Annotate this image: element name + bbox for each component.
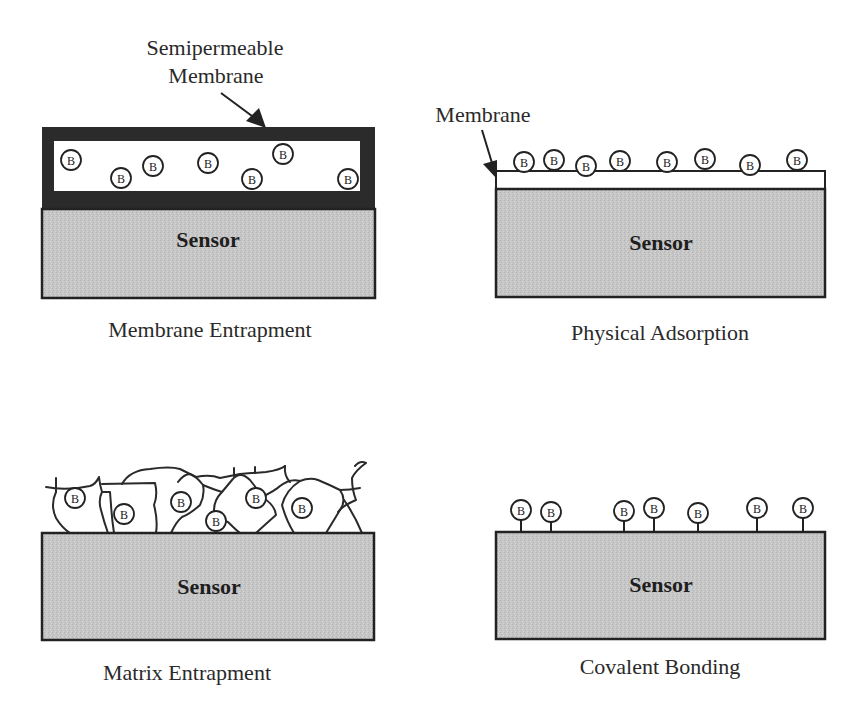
biomolecule-icon: B: [65, 488, 85, 508]
biomolecule-icon: B: [114, 504, 134, 524]
biomolecule-label: B: [212, 515, 220, 529]
arrow-icon: [221, 93, 266, 128]
biomolecule-label: B: [663, 156, 671, 170]
sensor-block: [42, 209, 375, 298]
biomolecule-icon: B: [544, 150, 564, 170]
biomolecule-label: B: [344, 173, 352, 187]
biomolecule-label: B: [694, 507, 702, 521]
biomolecule-label: B: [71, 492, 79, 506]
biomolecule-icon: B: [111, 168, 131, 188]
biomolecule-label: B: [650, 502, 658, 516]
biomolecule-label: B: [746, 159, 754, 173]
caption-membrane-entrapment: Membrane Entrapment: [108, 317, 311, 342]
biomolecule-label: B: [117, 172, 125, 186]
biomolecule-icon: B: [610, 151, 630, 171]
biomolecule-label: B: [252, 492, 260, 506]
sensor-label: Sensor: [629, 572, 693, 597]
biomolecule-label: B: [120, 508, 128, 522]
panel-covalent-bonding: Sensor BBBBBBB Covalent Bonding: [496, 498, 825, 679]
panel-matrix-entrapment: Sensor BBBBBB Matrix Entrapment: [42, 462, 374, 685]
biomolecule-icon: B: [695, 149, 715, 169]
biomolecule-label: B: [753, 502, 761, 516]
biomolecule-label: B: [701, 153, 709, 167]
biomolecule-label: B: [517, 504, 525, 518]
callout-semipermeable-line2: Membrane: [168, 63, 263, 88]
biomolecule-label: B: [298, 502, 306, 516]
biomolecule-icon: B: [576, 156, 596, 176]
biomolecule-label: B: [550, 154, 558, 168]
caption-physical-adsorption: Physical Adsorption: [571, 320, 749, 345]
biomolecule-label: B: [204, 157, 212, 171]
membrane-layer: [496, 171, 825, 189]
panel-physical-adsorption: Membrane Sensor BBBBBBBB Physical Adsorp…: [435, 102, 825, 345]
sensor-label: Sensor: [176, 227, 240, 252]
biomolecule-label: B: [582, 160, 590, 174]
arrow-icon: [482, 130, 497, 179]
biomolecule-label: B: [520, 156, 528, 170]
biomolecule-label: B: [547, 506, 555, 520]
callout-membrane: Membrane: [435, 102, 530, 127]
biomolecule-label: B: [799, 502, 807, 516]
biomolecule-icon: B: [143, 156, 163, 176]
biomolecule-label: B: [616, 155, 624, 169]
biomolecule-label: B: [279, 148, 287, 162]
biomolecule-icon: B: [688, 503, 708, 532]
biomolecule-icon: B: [747, 498, 767, 532]
biomolecule-icon: B: [511, 500, 531, 532]
biomolecule-icon: B: [644, 498, 664, 532]
biomolecule-label: B: [620, 505, 628, 519]
biomolecule-icon: B: [246, 488, 266, 508]
caption-matrix-entrapment: Matrix Entrapment: [103, 660, 271, 685]
biomolecule-icon: B: [171, 492, 191, 512]
biomolecule-label: B: [67, 154, 75, 168]
sensor-label: Sensor: [177, 574, 241, 599]
biomolecule-label: B: [177, 496, 185, 510]
biomolecule-icon: B: [541, 502, 561, 532]
caption-covalent-bonding: Covalent Bonding: [580, 654, 741, 679]
biomolecule-icon: B: [61, 150, 81, 170]
biomolecule-label: B: [248, 173, 256, 187]
biomolecule-icon: B: [292, 498, 312, 518]
biomolecule-icon: B: [206, 511, 226, 531]
biomolecule-group: BBBBBBB: [511, 498, 813, 532]
biomolecule-icon: B: [740, 155, 760, 175]
biomolecule-icon: B: [614, 501, 634, 532]
biomolecule-icon: B: [242, 169, 262, 189]
panel-membrane-entrapment: Semipermeable Membrane Sensor BBBBBBB Me…: [42, 35, 375, 342]
biomolecule-label: B: [149, 160, 157, 174]
sensor-label: Sensor: [629, 230, 693, 255]
biomolecule-icon: B: [514, 152, 534, 172]
immobilization-methods-diagram: Semipermeable Membrane Sensor BBBBBBB Me…: [0, 0, 864, 701]
biomolecule-icon: B: [793, 498, 813, 532]
biomolecule-icon: B: [198, 153, 218, 173]
biomolecule-icon: B: [338, 169, 358, 189]
callout-semipermeable-line1: Semipermeable: [147, 35, 284, 60]
biomolecule-icon: B: [787, 150, 807, 170]
biomolecule-icon: B: [273, 144, 293, 164]
biomolecule-label: B: [793, 154, 801, 168]
biomolecule-icon: B: [657, 152, 677, 172]
